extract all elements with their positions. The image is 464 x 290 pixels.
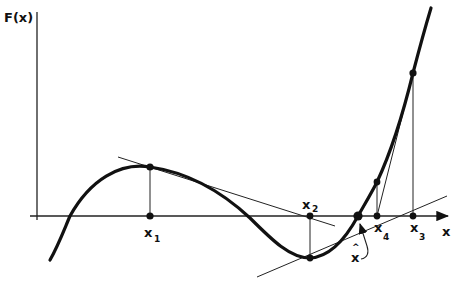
svg-text:4: 4 (383, 232, 389, 242)
diagram-figure: F(x) x x 1 x 2 x 4 x 3 x ^ (0, 0, 464, 290)
svg-text:x: x (410, 220, 419, 235)
point-f-x2 (307, 255, 314, 262)
label-x3: x 3 (410, 220, 425, 242)
svg-text:x: x (374, 220, 383, 235)
point-f-x1 (146, 163, 153, 170)
label-xhat: x ^ (351, 242, 360, 265)
xhat-pointer-arrow (360, 224, 368, 259)
point-x3 (410, 213, 417, 220)
point-f-x4 (374, 179, 381, 186)
svg-text:x: x (351, 250, 360, 265)
y-axis-label: F(x) (4, 10, 33, 25)
svg-text:x: x (302, 197, 311, 212)
label-x1: x 1 (144, 225, 160, 244)
point-x1 (146, 212, 153, 219)
point-f-x3 (409, 69, 416, 76)
svg-text:1: 1 (154, 234, 160, 244)
svg-text:3: 3 (419, 232, 425, 242)
svg-text:^: ^ (352, 242, 360, 252)
svg-text:x: x (144, 225, 153, 240)
point-x4 (374, 213, 381, 220)
point-xhat (353, 211, 362, 220)
label-x2: x 2 (302, 197, 318, 214)
label-x4: x 4 (374, 220, 389, 242)
x-axis-label: x (442, 224, 451, 239)
svg-text:2: 2 (312, 204, 318, 214)
